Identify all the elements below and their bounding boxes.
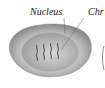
nucleus (22, 33, 78, 71)
chromosome-label: Chr (88, 6, 104, 17)
adjacent-cell-edge (103, 46, 105, 70)
nucleus-label: Nucleus (30, 6, 62, 17)
cell-diagram: Nucleus Chr (0, 0, 105, 88)
